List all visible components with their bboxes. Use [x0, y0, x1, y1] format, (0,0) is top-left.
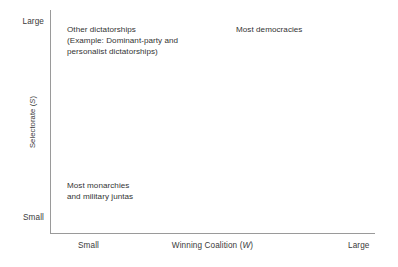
- x-axis-tick-large: Large: [348, 240, 369, 251]
- x-axis-title: Winning Coalition (W): [50, 240, 375, 251]
- x-axis-title-suffix: ): [250, 241, 253, 250]
- annotation-most-monarchies: Most monarchies and military juntas: [67, 180, 133, 202]
- annotation-other-dictatorships: Other dictatorships (Example: Dominant-p…: [67, 24, 178, 58]
- annotation-most-democracies: Most democracies: [236, 24, 302, 35]
- y-axis-title: Selectorate (S): [27, 10, 39, 234]
- y-axis-title-suffix: ): [28, 96, 37, 99]
- x-axis-title-prefix: Winning Coalition (: [172, 241, 243, 250]
- y-axis-title-prefix: Selectorate (: [28, 104, 37, 148]
- y-axis-line: [50, 10, 51, 234]
- x-axis-line: [50, 233, 375, 234]
- y-axis-title-symbol: S: [28, 99, 37, 104]
- selectorate-theory-figure: Large Small Selectorate (S) Small Winnin…: [0, 0, 398, 267]
